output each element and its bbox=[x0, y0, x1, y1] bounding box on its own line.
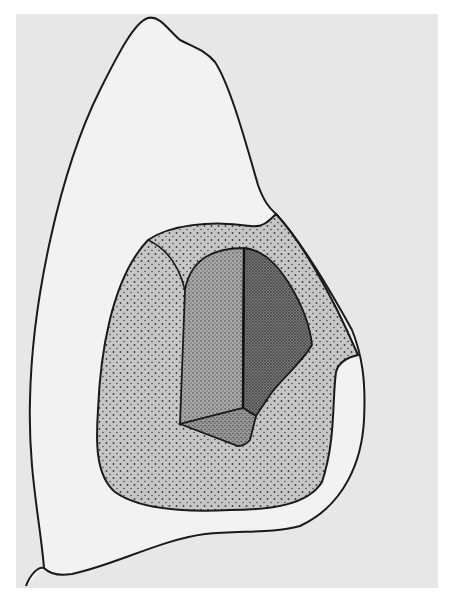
cavity-ridge-line bbox=[243, 248, 244, 408]
cavity-left-wall bbox=[180, 248, 244, 424]
tooth-diagram: Tooth outline with cavity preparation bbox=[0, 0, 456, 596]
